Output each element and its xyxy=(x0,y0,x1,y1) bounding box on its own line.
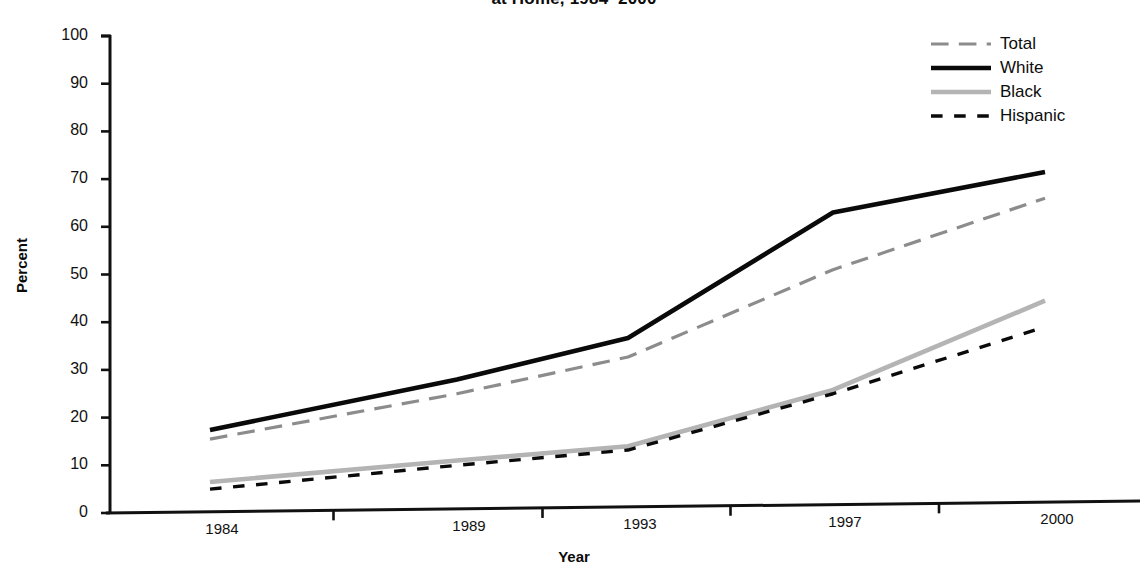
y-tick-label: 90 xyxy=(36,75,88,91)
y-tick-label: 40 xyxy=(36,313,88,329)
x-axis-line xyxy=(106,501,1140,513)
y-tick-label: 100 xyxy=(36,27,88,43)
x-tick-label: 2000 xyxy=(997,511,1117,527)
legend-label: White xyxy=(1000,59,1043,77)
legend-item-hispanic[interactable]: Hispanic xyxy=(930,104,1140,128)
chart-figure: at Home, 1984–2000 Percent Year 01020304… xyxy=(0,0,1148,575)
y-tick-label: 50 xyxy=(36,266,88,282)
legend-item-black[interactable]: Black xyxy=(930,80,1140,104)
legend-item-white[interactable]: White xyxy=(930,56,1140,80)
y-tick-label: 20 xyxy=(36,409,88,425)
series-line-black xyxy=(210,301,1045,482)
y-tick-label: 80 xyxy=(36,122,88,138)
legend-label: Hispanic xyxy=(1000,107,1065,125)
x-tick-label: 1989 xyxy=(409,518,529,534)
y-tick-label: 60 xyxy=(36,218,88,234)
chart-legend: TotalWhiteBlackHispanic xyxy=(930,32,1140,128)
y-tick-label: 0 xyxy=(36,504,88,520)
x-tick-label: 1997 xyxy=(785,514,905,530)
y-tick-label: 10 xyxy=(36,456,88,472)
legend-label: Total xyxy=(1000,35,1036,53)
y-tick-label: 70 xyxy=(36,170,88,186)
legend-swatch-black-icon xyxy=(930,85,992,99)
legend-swatch-white-icon xyxy=(930,61,992,75)
x-tick-label: 1984 xyxy=(162,521,282,537)
x-tick-label: 1993 xyxy=(580,516,700,532)
legend-label: Black xyxy=(1000,83,1042,101)
legend-item-total[interactable]: Total xyxy=(930,32,1140,56)
legend-swatch-hispanic-icon xyxy=(930,109,992,123)
data-series-group xyxy=(210,172,1045,489)
series-line-white xyxy=(210,172,1045,430)
y-tick-label: 30 xyxy=(36,361,88,377)
legend-swatch-total-icon xyxy=(930,37,992,51)
